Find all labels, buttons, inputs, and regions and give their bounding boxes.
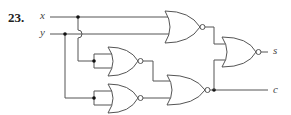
wire-g3-inputs	[94, 91, 112, 105]
wire-y-branch	[65, 34, 94, 98]
inverter-bubble	[138, 96, 143, 101]
junction-dot	[76, 15, 80, 19]
junction-dot	[92, 59, 96, 63]
junction-dot	[92, 96, 96, 100]
nor-gate-right	[222, 37, 256, 67]
wire-x-branch	[78, 17, 94, 61]
nor-gate-bottom-left	[108, 84, 138, 113]
wire-top-to-s-gate	[205, 27, 226, 44]
nor-gate-bottom-right	[167, 75, 205, 105]
inverter-bubble	[138, 59, 143, 64]
logic-circuit-diagram	[0, 0, 291, 115]
wire-g2-to-g4	[143, 61, 171, 81]
inverter-bubble	[205, 88, 210, 93]
nor-gate-top	[165, 11, 200, 43]
inverter-bubble	[256, 50, 261, 55]
wire-g2-inputs	[94, 54, 112, 68]
nor-gate-mid-left	[108, 47, 138, 76]
junction-dot	[63, 32, 67, 36]
inverter-bubble	[200, 25, 205, 30]
